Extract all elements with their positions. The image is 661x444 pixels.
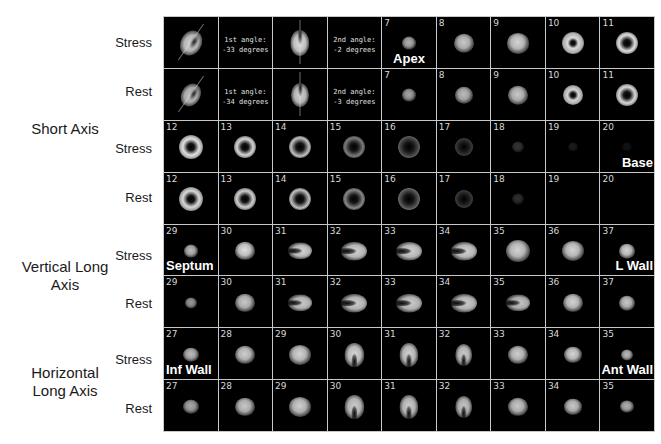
slice-number: 35 (602, 329, 613, 339)
slice-number: 33 (493, 381, 504, 391)
perfusion-blob-icon (184, 245, 198, 258)
slice-number: 19 (548, 174, 559, 184)
perfusion-blob-icon (289, 345, 311, 365)
slice-number: 29 (275, 381, 286, 391)
slice-number: 9 (493, 70, 499, 80)
scan-cell: 8 (437, 69, 491, 120)
row-label-3: Rest (92, 190, 152, 205)
region-tag: Septum (166, 259, 214, 273)
scan-cell: 20 (600, 173, 654, 224)
scan-cell: 33 (491, 328, 545, 379)
perfusion-inverted-u-icon (455, 396, 473, 418)
angle-text: 1st angle: -33 degrees (219, 35, 273, 55)
perfusion-blob-icon (235, 242, 255, 260)
scan-cell: 35 (491, 225, 545, 276)
scan-cell: 9 (491, 17, 545, 68)
scan-cell: 33 (382, 225, 436, 276)
scan-cell: 13 (219, 173, 273, 224)
scan-cell: 2nd angle: -2 degrees (328, 17, 382, 68)
perfusion-blob-icon (562, 241, 584, 261)
scan-cell: 36 (546, 225, 600, 276)
scan-cell: 11 (600, 69, 654, 120)
slice-number: 13 (221, 174, 232, 184)
perfusion-ring-icon (179, 135, 203, 159)
slice-number: 30 (221, 277, 232, 287)
slice-number: 11 (602, 18, 613, 28)
perfusion-blob-icon (564, 346, 582, 363)
slice-number: 15 (330, 122, 341, 132)
scan-cell: 7 (382, 69, 436, 120)
perfusion-blob-icon (235, 397, 255, 415)
perfusion-ring-icon (234, 188, 256, 210)
vertical-long-axis-line2: Axis (10, 276, 120, 294)
scan-cell: 17 (437, 173, 491, 224)
slice-number: 34 (548, 381, 559, 391)
slice-number: 28 (221, 329, 232, 339)
perfusion-blob-icon (621, 349, 633, 360)
perfusion-blob-icon (402, 37, 416, 50)
slice-number: 16 (384, 122, 395, 132)
scan-cell: 34 (437, 276, 491, 327)
slice-number: 30 (330, 329, 341, 339)
scan-cell: 32 (437, 380, 491, 431)
scan-cell: 9 (491, 69, 545, 120)
slice-number: 31 (384, 329, 395, 339)
perfusion-horseshoe-icon (396, 293, 422, 312)
perfusion-ring-icon (455, 190, 473, 208)
row-label-6: Stress (92, 352, 152, 367)
horizontal-long-axis-line2: Long Axis (10, 382, 120, 400)
slice-number: 35 (493, 226, 504, 236)
slice-number: 35 (602, 381, 613, 391)
perfusion-ring-icon (234, 136, 256, 158)
scan-cell: 19 (546, 173, 600, 224)
scan-cell: 32 (437, 328, 491, 379)
scan-cell: 37L Wall (600, 225, 654, 276)
slice-number: 7 (384, 18, 390, 28)
slice-number: 17 (439, 122, 450, 132)
scan-cell: 2nd angle: -3 degrees (328, 69, 382, 120)
perfusion-ring-icon (343, 136, 365, 158)
scan-cell: 10 (546, 17, 600, 68)
perfusion-inverted-u-icon (345, 343, 364, 367)
scan-cell: 34 (546, 328, 600, 379)
perfusion-blob-icon (508, 346, 528, 364)
slice-number: 29 (166, 277, 177, 287)
perfusion-horseshoe-icon (396, 242, 422, 261)
perfusion-ring-icon (289, 136, 311, 158)
perfusion-blob-icon (512, 194, 524, 205)
scan-cell: 37 (600, 276, 654, 327)
scan-cell: 31 (273, 276, 327, 327)
perfusion-inverted-u-icon (399, 343, 418, 367)
angle-text: 2nd angle: -2 degrees (328, 35, 382, 55)
scan-cell: 16 (382, 121, 436, 172)
scan-cell: 12 (164, 173, 218, 224)
slice-number: 28 (221, 381, 232, 391)
slice-number: 8 (439, 70, 445, 80)
slice-number: 32 (439, 329, 450, 339)
scan-cell: 14 (273, 121, 327, 172)
perfusion-blob-icon (512, 142, 524, 153)
scan-cell: 29 (164, 276, 218, 327)
slice-number: 37 (602, 226, 613, 236)
perfusion-ring-icon (398, 136, 420, 158)
perfusion-inverted-u-icon (399, 395, 418, 419)
slice-number: 18 (493, 122, 504, 132)
perfusion-inverted-u-icon (455, 344, 473, 366)
perfusion-v-shape-icon (291, 83, 309, 107)
slice-number: 18 (493, 174, 504, 184)
slice-number: 27 (166, 381, 177, 391)
perfusion-blob-icon (622, 143, 632, 152)
scan-cell: 35 (491, 276, 545, 327)
slice-number: 30 (330, 381, 341, 391)
scan-cell: 31 (382, 328, 436, 379)
scan-cell: 34 (546, 380, 600, 431)
slice-number: 36 (548, 277, 559, 287)
row-label-7: Rest (92, 401, 152, 416)
perfusion-ring-icon (562, 32, 584, 54)
perfusion-blob-icon (183, 347, 199, 362)
perfusion-blob-icon (235, 346, 255, 364)
perfusion-horseshoe-icon (341, 293, 367, 312)
perfusion-blob-icon (289, 396, 311, 416)
scan-cell: 18 (491, 121, 545, 172)
scan-cell: 17 (437, 121, 491, 172)
